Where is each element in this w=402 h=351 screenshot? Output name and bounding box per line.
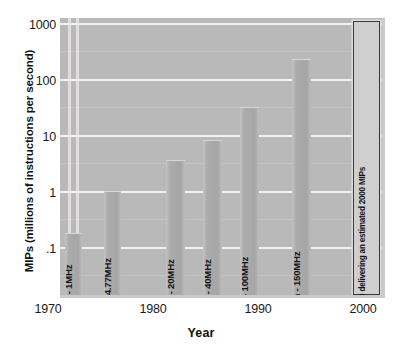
forecast-annotation-label: Microprocessor in the year 2000 deliveri… — [358, 167, 367, 295]
gridline-minor — [60, 51, 382, 52]
bar-label: 8088 - 4.77MHz — [102, 258, 113, 295]
y-tick-label: 1000 — [29, 18, 56, 32]
bar-8080: 8080 - 1MHz — [65, 233, 82, 295]
gridline-major — [60, 79, 382, 81]
gridline-minor — [60, 107, 382, 108]
plot-area: 8080 - 1MHz 8088 - 4.77MHz 80286 - 20MHz… — [60, 18, 385, 298]
x-tick-label: 2000 — [333, 302, 393, 316]
x-tick-label: 1990 — [228, 302, 288, 316]
gridline-major — [60, 135, 382, 137]
x-tick-label: 1980 — [123, 302, 183, 316]
bar-8088: 8088 - 4.77MHz — [104, 191, 121, 295]
mips-vs-year-chart: MIPs (millions of instructions per secon… — [0, 0, 402, 351]
gridline-major — [60, 23, 382, 25]
x-axis-title: Year — [0, 326, 402, 340]
bar-pentium: Pentium - 150MHz — [292, 59, 311, 295]
bar-80486: 80486 - 100MHz — [240, 107, 259, 295]
bar-80286: 80286 - 20MHz — [166, 160, 185, 295]
bar-label: 80286 - 20MHz — [165, 260, 176, 296]
y-tick-label: 1 — [49, 186, 56, 200]
plot-inner: 8080 - 1MHz 8088 - 4.77MHz 80286 - 20MHz… — [60, 18, 382, 295]
bar-label: 80486 - 100MHz — [239, 257, 250, 295]
bar-label: 8080 - 1MHz — [63, 265, 74, 295]
y-tick-label: 100 — [36, 74, 56, 88]
y-axis-title: MIPs (millions of instructions per secon… — [23, 16, 35, 306]
forecast-annotation-box: Microprocessor in the year 2000 deliveri… — [353, 21, 380, 295]
bar-label: Pentium - 150MHz — [291, 252, 302, 295]
bar-80386: 80386 - 40MHz — [203, 140, 222, 295]
x-tick-label: 1970 — [18, 302, 78, 316]
y-tick-label: .1 — [46, 242, 56, 256]
bar-label: 80386 - 40MHz — [202, 260, 213, 296]
y-tick-label: 10 — [42, 130, 56, 144]
